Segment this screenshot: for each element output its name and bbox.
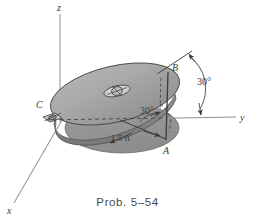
radius-dimension-label: 1.5 ft bbox=[111, 133, 130, 143]
point-a-label: A bbox=[162, 145, 170, 156]
outer-angle-label: 30° bbox=[197, 76, 211, 87]
inner-angle-label: 30° bbox=[140, 105, 154, 116]
outer-angle-arrow-lower bbox=[199, 103, 201, 115]
y-axis-label: y bbox=[239, 112, 245, 123]
physics-diagram: z y x C B A 30° 30° 1.5 ft bbox=[0, 0, 255, 224]
figure-caption: Prob. 5–54 bbox=[0, 196, 255, 208]
point-b-label: B bbox=[172, 62, 178, 73]
x-axis-line bbox=[14, 120, 62, 203]
outer-angle-arrow-upper bbox=[189, 54, 195, 62]
diagram-canvas: z y x C B A 30° 30° 1.5 ft bbox=[0, 0, 255, 224]
z-axis-label: z bbox=[56, 2, 61, 13]
point-c-label: C bbox=[36, 99, 43, 110]
